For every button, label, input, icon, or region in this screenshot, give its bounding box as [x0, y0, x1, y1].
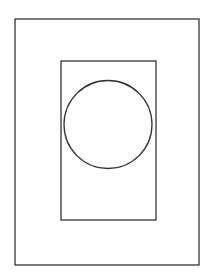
- diagram-canvas: [0, 0, 210, 273]
- inner-rectangle: [61, 61, 156, 220]
- outer-rectangle: [15, 19, 199, 265]
- circle: [64, 81, 152, 169]
